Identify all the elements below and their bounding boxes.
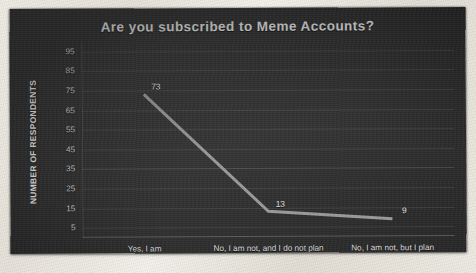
data-point-label: 9 — [402, 206, 407, 216]
series-polyline — [144, 93, 393, 220]
y-tick-label: 15 — [66, 204, 75, 213]
x-tick-label: No, I am not, but I plan — [351, 243, 434, 252]
chart-title: Are you subscribed to Meme Accounts? — [9, 18, 465, 35]
y-tick-label: 75 — [66, 86, 75, 95]
y-tick-label: 55 — [66, 125, 75, 134]
data-point-label: 73 — [151, 81, 160, 91]
y-tick-label: 65 — [66, 106, 75, 115]
y-axis-title-label: NUMBER OF RESPONDENTS — [28, 80, 39, 204]
x-tick-label: No, I am not, and I do not plan — [213, 244, 323, 254]
line-series — [82, 40, 455, 238]
data-point-label: 13 — [276, 198, 285, 208]
y-tick-label: 85 — [66, 67, 75, 76]
plot-area: 9585756555453525155 73139 Yes, I amNo, I… — [82, 40, 455, 238]
y-tick-label: 25 — [66, 184, 75, 193]
y-tick-label: 45 — [66, 145, 75, 154]
y-axis-title: NUMBER OF RESPONDENTS — [26, 67, 41, 217]
y-tick-label: 35 — [66, 165, 75, 174]
y-tick-label: 5 — [71, 223, 76, 232]
x-tick-label: Yes, I am — [128, 244, 162, 253]
y-tick-label: 95 — [65, 47, 74, 56]
chart-slide: Are you subscribed to Meme Accounts? NUM… — [9, 7, 466, 254]
